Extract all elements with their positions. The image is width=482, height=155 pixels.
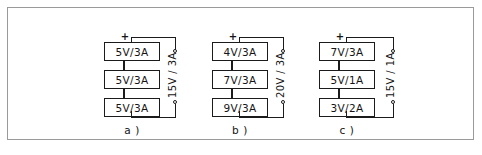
wire-b-plus-stub bbox=[239, 37, 240, 43]
cell-stack-a: 5V/3A 5V/3A 5V/3A bbox=[104, 42, 160, 117]
terminal-a-negative[interactable] bbox=[173, 100, 177, 104]
cell-a-1: 5V/3A bbox=[104, 42, 160, 61]
caption-b: b ) bbox=[204, 124, 276, 136]
circuit-c: + − 7V/3A 5V/1A 3V/2A 15V / 1A c ) bbox=[311, 30, 421, 140]
terminal-c-negative[interactable] bbox=[391, 100, 395, 104]
cell-b-2: 7V/3A bbox=[212, 70, 268, 89]
cell-link-a-2 bbox=[123, 89, 124, 98]
wire-a-top bbox=[131, 37, 176, 38]
wire-c-top bbox=[346, 37, 394, 38]
wire-a-bottom-rise bbox=[175, 104, 176, 117]
cell-link-c-1 bbox=[338, 61, 339, 70]
figure-root: + − 5V/3A 5V/3A 5V/3A 15V / 3A a ) bbox=[0, 0, 482, 155]
output-rating-b: 20V / 3A bbox=[275, 52, 286, 98]
positive-terminal-sign-c: + bbox=[333, 33, 347, 41]
wire-c-plus-stub bbox=[346, 37, 347, 43]
caption-c: c ) bbox=[311, 124, 383, 136]
circuit-b: + − 4V/3A 7V/3A 9V/3A 20V / 3A b ) bbox=[204, 30, 314, 140]
wire-b-bottom-rise bbox=[283, 104, 284, 117]
wire-c-bottom bbox=[346, 117, 394, 118]
cell-link-c-2 bbox=[338, 89, 339, 98]
cell-c-1: 7V/3A bbox=[319, 42, 375, 61]
cell-a-2: 5V/3A bbox=[104, 70, 160, 89]
caption-a: a ) bbox=[96, 124, 168, 136]
terminal-b-negative[interactable] bbox=[281, 100, 285, 104]
wire-a-plus-stub bbox=[131, 37, 132, 43]
cell-stack-b: 4V/3A 7V/3A 9V/3A bbox=[212, 42, 268, 117]
wire-c-bottom-rise bbox=[393, 104, 394, 117]
cell-link-a-1 bbox=[123, 61, 124, 70]
cell-link-b-1 bbox=[231, 61, 232, 70]
figure-frame: + − 5V/3A 5V/3A 5V/3A 15V / 3A a ) bbox=[7, 7, 474, 140]
circuit-a: + − 5V/3A 5V/3A 5V/3A 15V / 3A a ) bbox=[96, 30, 206, 140]
wire-a-bottom bbox=[131, 117, 176, 118]
positive-terminal-sign-a: + bbox=[118, 33, 132, 41]
cell-stack-c: 7V/3A 5V/1A 3V/2A bbox=[319, 42, 375, 117]
wire-b-top bbox=[239, 37, 284, 38]
cell-link-b-2 bbox=[231, 89, 232, 98]
output-rating-c: 15V / 1A bbox=[385, 52, 396, 98]
wire-b-bottom bbox=[239, 117, 284, 118]
cell-c-2: 5V/1A bbox=[319, 70, 375, 89]
positive-terminal-sign-b: + bbox=[226, 33, 240, 41]
output-rating-a: 15V / 3A bbox=[167, 52, 178, 98]
cell-b-1: 4V/3A bbox=[212, 42, 268, 61]
